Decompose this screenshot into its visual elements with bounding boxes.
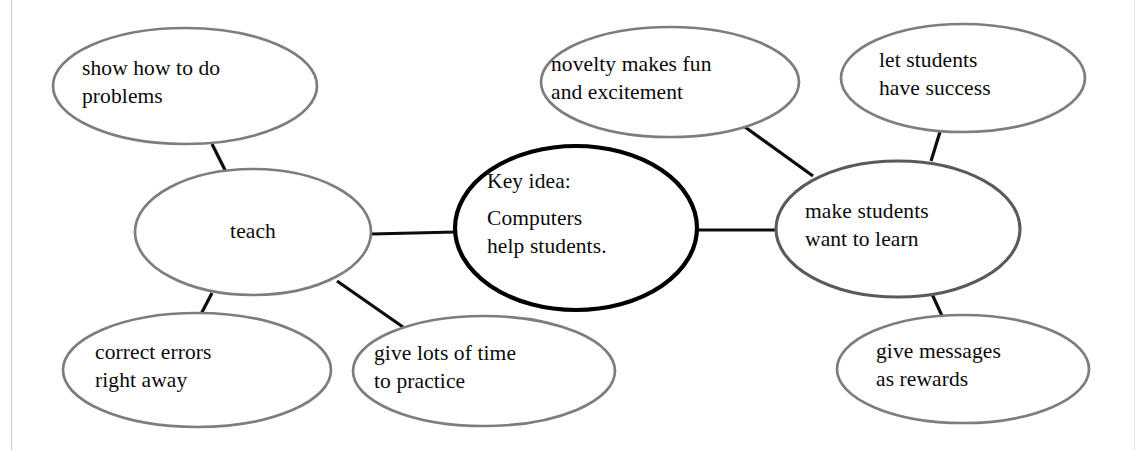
ellipse-novelty-makes-fun-and-excitement[interactable]: [541, 27, 799, 137]
ellipse-correct-errors-right-away[interactable]: [63, 313, 331, 427]
connector-show_how-to-teach: [212, 144, 226, 172]
ellipse-let-students-have-success[interactable]: [841, 24, 1085, 132]
connector-let_success-to-make_want: [931, 132, 940, 161]
connector-teach-to-give_time: [337, 281, 403, 327]
connector-novelty-to-make_want: [745, 127, 813, 176]
connector-teach-to-center: [371, 232, 456, 234]
concept-map-svg: [0, 0, 1145, 450]
ellipses-group: [53, 24, 1089, 427]
ellipse-show-how-to-do-problems[interactable]: [53, 28, 317, 144]
concept-map-canvas: show how to do problems teach correct er…: [0, 0, 1145, 450]
ellipse-teach[interactable]: [135, 169, 371, 295]
ellipse-center[interactable]: [455, 146, 697, 310]
ellipse-give-lots-of-time-to-practice[interactable]: [353, 316, 615, 426]
ellipse-give-messages-as-rewards[interactable]: [837, 315, 1089, 423]
ellipse-make-students-want-to-learn[interactable]: [776, 161, 1020, 297]
